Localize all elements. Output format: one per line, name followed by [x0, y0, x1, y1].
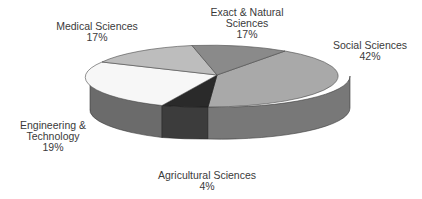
label-medical-pct: 17%: [56, 32, 138, 43]
label-engineering-technology: Engineering & Technology 19%: [20, 120, 86, 153]
label-agricultural-pct: 4%: [158, 181, 256, 192]
label-medical-sciences: Medical Sciences 17%: [56, 21, 138, 43]
label-social-pct: 42%: [333, 51, 407, 62]
label-agricultural-sciences: Agricultural Sciences 4%: [158, 170, 256, 192]
slice-side-agricultural: [162, 106, 208, 140]
label-engineering-pct: 19%: [20, 142, 86, 153]
label-social-sciences: Social Sciences 42%: [333, 40, 407, 62]
label-exact-natural-sciences: Exact & Natural Sciences 17%: [211, 7, 284, 40]
label-exact-pct: 17%: [211, 29, 284, 40]
